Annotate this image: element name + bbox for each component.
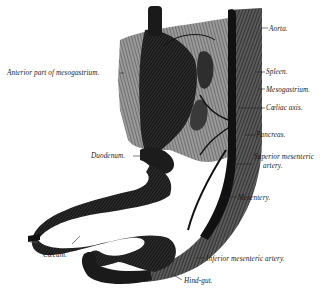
label-inferior-mesenteric: Inferior mesenteric artery. [206, 256, 285, 263]
label-hind-gut: Hind-gut. [184, 278, 213, 285]
label-coeliac-axis: Cœliac axis. [266, 105, 303, 112]
label-mesogastrium: Mesogastrium. [266, 87, 310, 94]
label-superior-mesenteric-1: Superior mesenteric [254, 154, 314, 161]
label-anterior-mesogastrium: Anterior part of mesogastrium. [7, 70, 99, 77]
label-aorta: Aorta. [269, 26, 288, 33]
label-superior-mesenteric-2: artery. [263, 163, 283, 170]
esophagus [148, 6, 162, 36]
anatomical-figure [0, 0, 331, 294]
label-spleen: Spleen. [266, 69, 288, 76]
label-duodenum: Duodenum. [91, 153, 125, 160]
label-pancreas: Pancreas. [256, 132, 286, 139]
label-mesentery: Mesentery. [238, 195, 270, 202]
label-caecum: Cæcum. [43, 252, 67, 259]
